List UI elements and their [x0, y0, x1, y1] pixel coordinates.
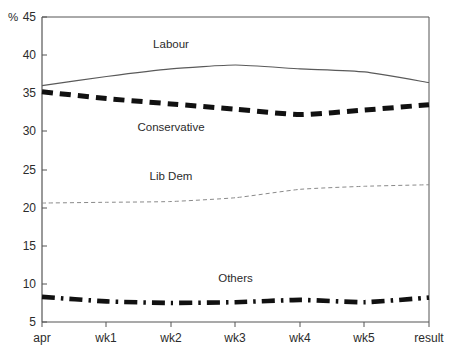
y-tick-label-40: 40 [23, 48, 37, 62]
x-tick-label-result: result [414, 331, 444, 345]
y-tick-label-35: 35 [23, 86, 37, 100]
series-layer [42, 65, 429, 303]
x-tick-label-wk5: wk5 [352, 331, 375, 345]
series-label-conservative: Conservative [137, 121, 204, 133]
y-tick-label-25: 25 [23, 163, 37, 177]
x-axis-ticks [42, 322, 429, 327]
line-chart: % 45 40 35 30 25 20 15 10 5 apr wk1 wk2 … [0, 0, 449, 356]
x-tick-label-wk2: wk2 [159, 331, 182, 345]
y-tick-label-30: 30 [23, 124, 37, 138]
series-label-others: Others [218, 272, 253, 284]
y-axis-ticks [42, 17, 47, 322]
y-tick-label-15: 15 [23, 239, 37, 253]
x-tick-label-wk1: wk1 [94, 331, 117, 345]
y-tick-label-20: 20 [23, 201, 37, 215]
x-tick-label-wk4: wk4 [288, 331, 311, 345]
series-line-labour [42, 65, 429, 86]
y-axis-unit-label: % [8, 11, 18, 23]
chart-container: % 45 40 35 30 25 20 15 10 5 apr wk1 wk2 … [0, 0, 449, 356]
x-tick-label-wk3: wk3 [223, 331, 246, 345]
y-tick-label-45: 45 [23, 10, 37, 24]
x-tick-label-apr: apr [33, 331, 50, 345]
series-label-lib-dem: Lib Dem [150, 170, 193, 182]
series-line-others [42, 297, 429, 303]
series-label-layer: LabourConservativeLib DemOthers [137, 38, 253, 285]
series-line-conservative [42, 92, 429, 115]
series-label-labour: Labour [153, 38, 189, 50]
y-tick-label-5: 5 [29, 315, 36, 329]
y-tick-label-10: 10 [23, 277, 37, 291]
series-line-lib-dem [42, 185, 429, 203]
